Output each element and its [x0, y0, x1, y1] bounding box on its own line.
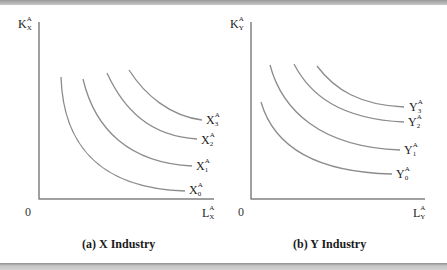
isoquant-diagram — [0, 0, 447, 270]
panel-a-origin-label: 0 — [25, 205, 31, 220]
panel-b-caption: (b) Y Industry — [293, 237, 366, 252]
label-base: Y — [409, 100, 418, 114]
label-sub: 1 — [413, 151, 417, 158]
label-sub: Y — [239, 25, 244, 32]
label-sub: Y — [420, 214, 425, 221]
label-base: X — [189, 183, 198, 197]
label-base: Y — [408, 115, 417, 129]
isoquant-y2-label: YA2 — [408, 116, 417, 128]
label-sup: A — [420, 205, 425, 212]
label-sub: 2 — [210, 141, 214, 148]
isoquant-y3 — [317, 66, 404, 107]
panel-a-y-axis-label: KAX — [18, 18, 27, 30]
label-sub: X — [27, 25, 32, 32]
isoquant-x1-label: XA1 — [196, 160, 205, 172]
label-sup: A — [239, 16, 244, 23]
label-sub: 2 — [417, 123, 421, 130]
label-base: L — [202, 206, 209, 220]
isoquant-x0 — [61, 77, 185, 191]
isoquant-x1 — [83, 79, 192, 166]
label-sub: X — [209, 214, 214, 221]
panel-b-x-axis-label: LAY — [413, 207, 420, 219]
label-sup: A — [405, 166, 410, 173]
label-sup: A — [205, 158, 210, 165]
panel-a-caption: (a) X Industry — [82, 237, 155, 252]
label-base: X — [196, 159, 205, 173]
panel-a-x-axis-label: LAX — [202, 207, 209, 219]
isoquant-x3-label: XA3 — [206, 114, 215, 126]
label-base: X — [201, 133, 210, 147]
panel-b-y-axis-label: KAY — [230, 18, 239, 30]
panel-a-isoquants — [61, 70, 202, 191]
label-base: X — [206, 113, 215, 127]
label-sup: A — [215, 112, 220, 119]
label-sub: 0 — [405, 175, 409, 182]
label-sup: A — [418, 99, 423, 106]
isoquant-y3-label: YA3 — [409, 101, 418, 113]
label-sup: A — [413, 142, 418, 149]
label-base: Y — [404, 143, 413, 157]
isoquant-x3 — [129, 70, 202, 120]
isoquant-y0 — [261, 102, 392, 174]
isoquant-y1-label: YA1 — [404, 144, 413, 156]
label-sub: 3 — [418, 108, 422, 115]
isoquant-y2 — [294, 64, 404, 122]
label-sub: 1 — [205, 167, 209, 174]
label-base: L — [413, 206, 420, 220]
isoquant-y1 — [270, 65, 400, 150]
label-sub: 3 — [215, 121, 219, 128]
label-base: Y — [396, 167, 405, 181]
label-sup: A — [209, 205, 214, 212]
isoquant-x2-label: XA2 — [201, 134, 210, 146]
label-sup: A — [198, 182, 203, 189]
bottom-border-band — [0, 263, 447, 270]
label-base: K — [18, 17, 27, 31]
panel-b-origin-label: 0 — [238, 205, 244, 220]
label-sup: A — [27, 16, 32, 23]
isoquant-x2 — [107, 73, 197, 139]
label-sub: 0 — [198, 191, 202, 198]
label-sup: A — [417, 114, 422, 121]
panel-b-isoquants — [261, 64, 404, 174]
label-base: K — [230, 17, 239, 31]
label-sup: A — [210, 132, 215, 139]
isoquant-x0-label: XA0 — [189, 184, 198, 196]
isoquant-y0-label: YA0 — [396, 168, 405, 180]
